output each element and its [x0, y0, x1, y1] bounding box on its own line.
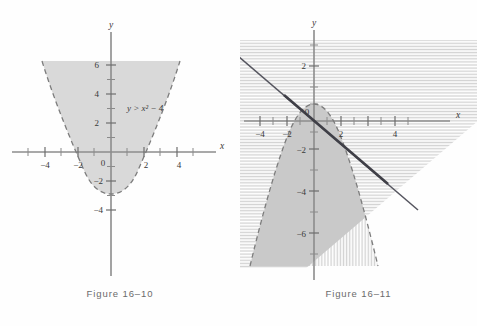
y-tick-label--2: −2	[296, 145, 306, 155]
x-tick-label--2: −2	[282, 129, 292, 139]
x-tick-label-0: 0	[305, 107, 310, 117]
y-tick-label--2: −2	[93, 176, 103, 186]
x-tick-label--2: −2	[73, 160, 83, 170]
y-tick-label--4: −4	[93, 205, 103, 215]
figure-16-11-plot: x y −4 −2 0 2 4 2 −2 −4 −6	[240, 8, 477, 286]
figure-16-10-svg: x y −4 −2 0 2 4 6 4 2 −2 −4 y > x² − 4	[0, 8, 240, 286]
x-axis-label: x	[219, 141, 225, 151]
x-axis-label: x	[455, 110, 461, 120]
y-tick-label-2: 2	[302, 61, 307, 71]
y-tick-label-6: 6	[95, 60, 100, 70]
x-tick-label-2: 2	[144, 160, 149, 170]
y-tick-label--4: −4	[296, 187, 306, 197]
x-tick-label-4: 4	[177, 160, 182, 170]
x-tick-label-4: 4	[393, 129, 398, 139]
figure-page: x y −4 −2 0 2 4 6 4 2 −2 −4 y > x² − 4 F…	[0, 0, 477, 326]
figure-16-11: x y −4 −2 0 2 4 2 −2 −4 −6 Figure 16–11	[240, 0, 477, 326]
x-tick-label-0: 0	[101, 158, 106, 168]
figure-16-10: x y −4 −2 0 2 4 6 4 2 −2 −4 y > x² − 4 F…	[0, 0, 240, 326]
y-tick-label-4: 4	[95, 89, 100, 99]
y-tick-label--6: −6	[296, 229, 306, 239]
y-tick-label-2: 2	[95, 118, 100, 128]
x-tick-label-2: 2	[339, 129, 344, 139]
x-tick-label--4: −4	[40, 160, 50, 170]
x-tick-label--4: −4	[255, 129, 265, 139]
figure-16-11-svg: x y −4 −2 0 2 4 2 −2 −4 −6	[240, 8, 477, 286]
y-axis-label: y	[311, 18, 317, 28]
inequality-annotation: y > x² − 4	[126, 103, 164, 113]
y-axis-label: y	[108, 20, 114, 30]
figure-16-10-plot: x y −4 −2 0 2 4 6 4 2 −2 −4 y > x² − 4	[0, 8, 240, 286]
figure-16-10-caption: Figure 16–10	[0, 288, 240, 299]
figure-16-11-caption: Figure 16–11	[240, 288, 477, 299]
